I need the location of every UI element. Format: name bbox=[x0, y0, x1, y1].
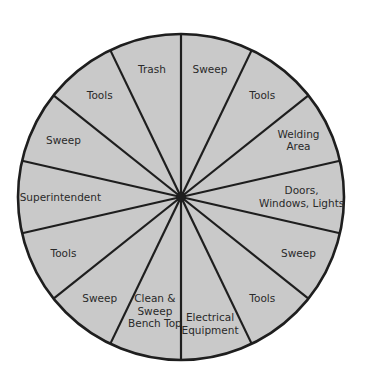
segment-label: Tools bbox=[248, 89, 275, 101]
segment-label: Trash bbox=[137, 63, 166, 75]
chore-wheel: SweepToolsWeldingAreaDoors,Windows, Ligh… bbox=[0, 0, 367, 381]
segment-label: Sweep bbox=[82, 292, 117, 304]
segment-label: Sweep bbox=[46, 134, 81, 146]
wheel-hub bbox=[176, 192, 186, 202]
segment-label: Superintendent bbox=[20, 191, 101, 203]
segment-label: Tools bbox=[86, 89, 113, 101]
segment-label: Tools bbox=[50, 247, 77, 259]
segment-label: Sweep bbox=[193, 63, 228, 75]
segment-label: Sweep bbox=[281, 247, 316, 259]
segment-label: ElectricalEquipment bbox=[182, 311, 239, 336]
segment-label: Tools bbox=[248, 292, 275, 304]
